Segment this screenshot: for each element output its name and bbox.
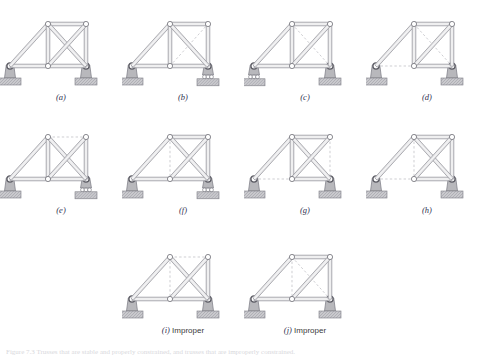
truss-joint-c-D (289, 21, 294, 26)
truss-joint-d-E (449, 21, 454, 26)
panel-caption-d: (d) (366, 92, 488, 102)
truss-panel-f (122, 117, 244, 203)
truss-diagram-a (0, 4, 122, 90)
truss-member-seam (376, 24, 414, 66)
truss-joint-b-E (205, 21, 210, 26)
panel-label-d: (d) (422, 92, 432, 102)
panel-label-e: (e) (56, 205, 65, 215)
roller-wheel (256, 75, 260, 79)
truss-joint-g-D (289, 134, 294, 139)
roller-wheel (210, 75, 214, 79)
truss-joint-h-B (411, 176, 416, 181)
panel-note-i: Improper (170, 326, 204, 335)
truss-joint-j-E (327, 254, 332, 259)
truss-diagram-j (244, 237, 366, 323)
truss-member-seam (132, 137, 170, 179)
truss-joint-i-B (167, 296, 172, 301)
roller-wheel (88, 188, 92, 192)
panel-label-c: (c) (300, 92, 309, 102)
panel-label-b: (b) (178, 92, 188, 102)
members-b (131, 22, 210, 68)
panel-caption-e: (e) (0, 205, 122, 215)
truss-member-seam (132, 24, 170, 66)
panel-label-a: (a) (56, 92, 66, 102)
panel-caption-a: (a) (0, 92, 122, 102)
panel-label-f: (f) (179, 205, 187, 215)
truss-panel-d (366, 4, 488, 90)
truss-joint-h-D (411, 134, 416, 139)
roller-wheel (210, 188, 214, 192)
truss-member-seam (10, 137, 48, 179)
truss-joint-i-E (205, 254, 210, 259)
members-c (253, 22, 332, 68)
panel-caption-g: (g) (244, 205, 366, 215)
panel-label-h: (h) (422, 205, 432, 215)
truss-member-seam (10, 24, 48, 66)
truss-diagram-d (366, 4, 488, 90)
truss-joint-j-B (289, 296, 294, 301)
truss-panel-e (0, 117, 122, 203)
truss-joint-f-E (205, 134, 210, 139)
truss-joint-f-B (167, 176, 172, 181)
panel-label-g: (g) (300, 205, 310, 215)
truss-joint-c-E (327, 21, 332, 26)
truss-diagram-h (366, 117, 488, 203)
members-g (253, 135, 332, 181)
panel-label-i: (i) (162, 325, 170, 335)
panel-label-j: (j) (284, 325, 292, 335)
truss-joint-a-D (45, 21, 50, 26)
truss-panel-h (366, 117, 488, 203)
panel-caption-h: (h) (366, 205, 488, 215)
truss-joint-b-D (167, 21, 172, 26)
truss-diagram-c (244, 4, 366, 90)
truss-joint-c-B (289, 63, 294, 68)
figure-caption: Figure 7.3 Trusses that are stable and p… (6, 348, 482, 358)
truss-diagram-f (122, 117, 244, 203)
truss-diagram-g (244, 117, 366, 203)
panel-caption-j: (j) Improper (244, 325, 366, 335)
truss-joint-e-E (83, 134, 88, 139)
truss-panel-c (244, 4, 366, 90)
truss-panel-j (244, 237, 366, 323)
truss-diagram-b (122, 4, 244, 90)
members-d (375, 22, 454, 68)
panel-caption-i: (i) Improper (122, 325, 244, 335)
truss-diagram-e (0, 117, 122, 203)
truss-joint-g-E (327, 134, 332, 139)
truss-member-seam (132, 257, 170, 299)
truss-joint-j-D (289, 254, 294, 259)
truss-member-seam (254, 257, 292, 299)
panel-caption-c: (c) (244, 92, 366, 102)
truss-joint-d-D (411, 21, 416, 26)
truss-joint-g-B (289, 176, 294, 181)
truss-joint-f-D (167, 134, 172, 139)
members-a (9, 22, 88, 68)
truss-figure: (a)(b)(c)(d)(e)(f)(g)(h)(i) Improper(j) … (0, 0, 488, 359)
truss-panel-a (0, 4, 122, 90)
truss-member-seam (254, 24, 292, 66)
truss-member-seam (376, 137, 414, 179)
truss-panel-i (122, 237, 244, 323)
truss-joint-e-D (45, 134, 50, 139)
truss-joint-a-E (83, 21, 88, 26)
truss-member-seam (254, 137, 292, 179)
truss-joint-d-B (411, 63, 416, 68)
truss-panel-b (122, 4, 244, 90)
truss-joint-a-B (45, 63, 50, 68)
truss-panel-g (244, 117, 366, 203)
truss-joint-b-B (167, 63, 172, 68)
truss-joint-i-D (167, 254, 172, 259)
panel-caption-b: (b) (122, 92, 244, 102)
truss-diagram-i (122, 237, 244, 323)
panel-caption-f: (f) (122, 205, 244, 215)
panel-note-j: Improper (292, 326, 326, 335)
truss-joint-e-B (45, 176, 50, 181)
truss-joint-h-E (449, 134, 454, 139)
members-e (9, 136, 88, 181)
